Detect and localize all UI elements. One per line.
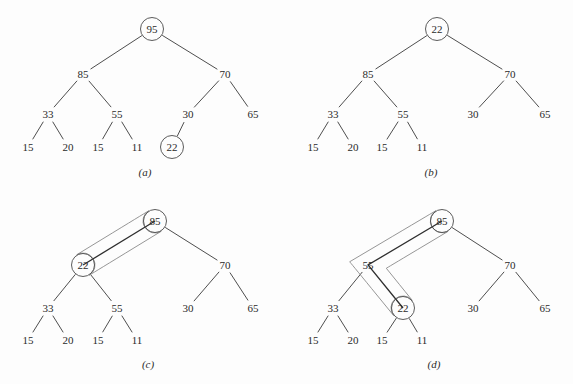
tree-edge (318, 316, 328, 333)
tree-node-20: 20 (348, 141, 359, 153)
tree-node-65: 65 (540, 302, 551, 314)
tree-edge (407, 122, 417, 139)
swap-path-spine (368, 221, 442, 308)
panel-c (33, 210, 248, 333)
tree-edge (90, 274, 111, 301)
tree-node-33: 33 (43, 108, 54, 120)
tree-node-11: 11 (417, 141, 428, 153)
tree-edge (53, 122, 64, 140)
tree-edge (452, 228, 502, 261)
tree-node-85: 85 (437, 215, 448, 227)
tree-edge (338, 316, 348, 333)
tree-node-85: 85 (363, 68, 374, 80)
tree-node-85: 85 (150, 215, 161, 227)
tree-node-70: 70 (220, 259, 231, 271)
tree-edge (194, 272, 219, 301)
tree-node-70: 70 (505, 68, 516, 80)
tree-node-33: 33 (328, 108, 339, 120)
tree-node-15: 15 (308, 141, 319, 153)
tree-node-85: 85 (78, 68, 89, 80)
tree-edge (122, 122, 133, 140)
tree-node-55: 55 (112, 302, 123, 314)
tree-edge (447, 35, 502, 69)
tree-node-33: 33 (43, 302, 54, 314)
tree-node-55: 55 (398, 108, 409, 120)
tree-node-20: 20 (63, 334, 74, 346)
tree-edge (53, 316, 63, 333)
tree-edge (387, 318, 396, 332)
tree-edge (387, 122, 398, 140)
tree-figure: 958570335530651520151122(a)2285703355306… (0, 0, 573, 384)
tree-edge (103, 316, 113, 333)
tree-edge (409, 318, 417, 332)
tree-edge (33, 122, 44, 140)
tree-edge (338, 122, 349, 140)
tree-edge (479, 272, 504, 301)
tree-edge (374, 81, 397, 107)
tree-node-70: 70 (505, 259, 516, 271)
tree-node-33: 33 (328, 302, 339, 314)
tree-node-65: 65 (248, 108, 259, 120)
panel-caption-a: (a) (139, 166, 152, 178)
tree-node-11: 11 (417, 334, 428, 346)
tree-edge (91, 36, 142, 70)
tree-edge (33, 316, 43, 333)
tree-node-30: 30 (468, 108, 479, 120)
tree-edge (102, 122, 112, 139)
tree-node-22: 22 (432, 23, 443, 35)
tree-edge (165, 227, 217, 260)
tree-node-20: 20 (348, 334, 359, 346)
tree-edge (177, 122, 184, 136)
panel-a (33, 18, 248, 159)
tree-node-30: 30 (183, 108, 194, 120)
tree-node-11: 11 (132, 334, 143, 346)
tree-node-65: 65 (540, 108, 551, 120)
tree-edge (230, 81, 248, 106)
tree-node-95: 95 (147, 23, 158, 35)
tree-node-22: 22 (167, 141, 178, 153)
tree-node-30: 30 (468, 302, 479, 314)
tree-node-11: 11 (132, 141, 143, 153)
tree-edge (339, 81, 362, 107)
tree-node-15: 15 (23, 334, 34, 346)
tree-node-15: 15 (93, 141, 104, 153)
tree-node-15: 15 (23, 141, 34, 153)
tree-edge (162, 35, 217, 69)
tree-edge (122, 316, 132, 333)
tree-node-15: 15 (377, 141, 388, 153)
tree-edge (376, 36, 427, 70)
tree-edge (516, 272, 540, 301)
tree-edge (54, 81, 77, 107)
tree-node-15: 15 (93, 334, 104, 346)
tree-edge (54, 274, 76, 301)
tree-node-55: 55 (112, 108, 123, 120)
tree-node-22: 22 (398, 302, 409, 314)
tree-node-30: 30 (183, 302, 194, 314)
tree-graphics (0, 0, 573, 384)
tree-edge (89, 81, 111, 107)
tree-edge (479, 81, 504, 108)
tree-node-22: 22 (78, 259, 89, 271)
panel-caption-c: (c) (142, 358, 154, 370)
tree-node-15: 15 (377, 334, 388, 346)
tree-node-65: 65 (248, 302, 259, 314)
tree-edge (516, 81, 539, 107)
tree-edge (318, 122, 329, 140)
panel-caption-b: (b) (425, 166, 438, 178)
tree-node-20: 20 (63, 141, 74, 153)
tree-edge (339, 272, 363, 301)
tree-node-55: 55 (363, 259, 374, 271)
tree-edge (230, 273, 248, 301)
panel-caption-d: (d) (428, 358, 441, 370)
tree-node-15: 15 (308, 334, 319, 346)
tree-node-70: 70 (220, 68, 231, 80)
tree-edge (194, 81, 219, 108)
swap-path-spine (83, 221, 155, 265)
